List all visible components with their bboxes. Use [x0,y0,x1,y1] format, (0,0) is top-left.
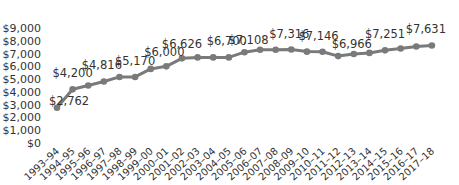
y-tick-label: $3,000 [3,99,42,112]
y-tick-label: $5,000 [3,73,42,86]
data-point-marker [241,49,248,56]
data-point-marker [304,48,311,55]
data-point-marker [382,47,389,54]
y-tick-label: $9,000 [3,22,42,35]
data-point-marker [194,54,201,61]
data-labels: $2,762$4,200$4,816$5,170$6,000$6,626$6,7… [49,22,446,107]
data-point-marker [272,46,279,53]
y-tick-label: $6,000 [3,60,42,73]
data-label: $7,108 [228,33,268,47]
x-axis-labels: 1993–941994–951995–961996–971997–981998–… [22,145,436,182]
data-point-marker [397,45,404,52]
line-chart: $0$1,000$2,000$3,000$4,000$5,000$6,000$7… [0,0,459,185]
data-point-marker [132,74,139,81]
y-tick-label: $8,000 [3,35,42,48]
data-point-marker [85,82,92,89]
data-label: $2,762 [49,94,89,108]
data-point-marker [319,48,326,55]
data-label: $6,626 [162,37,202,51]
y-tick-label: $2,000 [3,111,42,124]
y-tick-label: $0 [27,137,41,150]
data-point-marker [335,53,342,60]
data-point-marker [257,46,264,53]
data-label: $7,631 [406,22,446,36]
data-point-marker [413,43,420,50]
data-point-marker [226,54,233,61]
data-point-marker [163,63,170,70]
data-point-marker [101,78,108,85]
data-point-marker [429,42,436,49]
data-label: $7,251 [365,27,405,41]
y-tick-label: $4,000 [3,86,42,99]
data-point-marker [69,86,76,93]
y-tick-label: $7,000 [3,48,42,61]
data-point-marker [116,74,123,81]
y-axis-labels: $0$1,000$2,000$3,000$4,000$5,000$6,000$7… [3,22,42,150]
data-point-marker [288,46,295,53]
y-tick-label: $1,000 [3,124,42,137]
data-point-marker [210,54,217,61]
data-point-marker [350,51,357,58]
